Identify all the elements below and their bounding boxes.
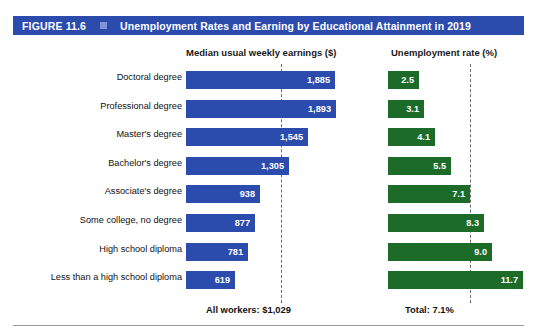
earnings-value: 938 — [240, 189, 255, 199]
chart-row: Associate's degree 938 7.1 — [0, 182, 537, 211]
unemployment-value: 5.5 — [433, 161, 446, 171]
footer-note-unemployment: Total: 7.1% — [405, 304, 454, 315]
unemployment-value: 3.1 — [406, 104, 419, 114]
unemployment-value: 7.1 — [452, 189, 465, 199]
earnings-bar: 1,885 — [186, 71, 335, 89]
earnings-bar: 1,305 — [186, 157, 289, 175]
earnings-bar: 619 — [186, 271, 235, 289]
row-label: Professional degree — [100, 101, 182, 111]
unemployment-bar: 5.5 — [388, 157, 451, 175]
unemployment-value: 2.5 — [401, 75, 414, 85]
earnings-value: 619 — [215, 275, 230, 285]
figure-title-bar: FIGURE 11.6 Unemployment Rates and Earni… — [13, 16, 524, 35]
unemployment-bar: 9.0 — [388, 243, 492, 261]
unemployment-value: 11.7 — [501, 275, 518, 285]
row-label: Some college, no degree — [80, 215, 182, 225]
bottom-divider — [13, 325, 524, 326]
chart-row: Less than a high school diploma 619 11.7 — [0, 268, 537, 297]
chart-row: Doctoral degree 1,885 2.5 — [0, 68, 537, 97]
figure-number: FIGURE 11.6 — [22, 20, 86, 32]
chart-row: Some college, no degree 877 8.3 — [0, 211, 537, 240]
figure-title: Unemployment Rates and Earning by Educat… — [120, 20, 471, 32]
row-label: High school diploma — [99, 244, 182, 254]
chart-rows: Doctoral degree 1,885 2.5 Professional d… — [0, 68, 537, 297]
chart-row: Bachelor's degree 1,305 5.5 — [0, 154, 537, 183]
figure-container: FIGURE 11.6 Unemployment Rates and Earni… — [0, 0, 537, 333]
unemployment-value: 4.1 — [417, 132, 430, 142]
unemployment-bar: 11.7 — [388, 271, 523, 289]
earnings-bar: 938 — [186, 185, 260, 203]
chart-row: Master's degree 1,545 4.1 — [0, 125, 537, 154]
unemployment-bar: 7.1 — [388, 185, 470, 203]
unemployment-bar: 8.3 — [388, 214, 484, 232]
unemployment-bar: 2.5 — [388, 71, 419, 89]
row-label: Associate's degree — [105, 186, 182, 196]
earnings-value: 1,893 — [308, 104, 331, 114]
earnings-value: 1,305 — [261, 161, 284, 171]
column-header-earnings: Median usual weekly earnings ($) — [186, 47, 336, 58]
earnings-value: 877 — [235, 218, 250, 228]
row-label: Master's degree — [116, 129, 182, 139]
unemployment-bar: 3.1 — [388, 100, 424, 118]
earnings-bar: 877 — [186, 214, 255, 232]
earnings-bar: 781 — [186, 243, 248, 261]
column-header-unemployment: Unemployment rate (%) — [391, 47, 497, 58]
earnings-value: 1,885 — [307, 75, 330, 85]
earnings-value: 1,545 — [280, 132, 303, 142]
unemployment-bar: 4.1 — [388, 128, 435, 146]
row-label: Less than a high school diploma — [51, 272, 182, 282]
earnings-bar: 1,545 — [186, 128, 308, 146]
earnings-bar: 1,893 — [186, 100, 336, 118]
row-label: Doctoral degree — [117, 72, 182, 82]
square-marker-icon — [100, 22, 107, 29]
earnings-value: 781 — [228, 247, 243, 257]
row-label: Bachelor's degree — [108, 158, 182, 168]
unemployment-value: 9.0 — [474, 247, 487, 257]
unemployment-value: 8.3 — [466, 218, 479, 228]
chart-row: Professional degree 1,893 3.1 — [0, 97, 537, 126]
footer-note-earnings: All workers: $1,029 — [206, 304, 291, 315]
chart-row: High school diploma 781 9.0 — [0, 240, 537, 269]
